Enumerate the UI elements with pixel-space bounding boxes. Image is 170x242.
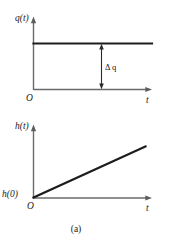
delta-q-arrowhead-top — [99, 44, 104, 50]
top-x-axis-label: t — [146, 95, 149, 105]
bottom-data-line-h — [34, 147, 146, 198]
figure-caption: (a) — [71, 224, 82, 235]
top-y-axis-arrowhead — [31, 17, 36, 24]
top-origin-label: O — [26, 93, 33, 103]
h-zero-intercept-label: h(0) — [2, 189, 18, 200]
chart-panel-top: q(t) t O Δ q — [15, 13, 152, 105]
bottom-x-axis-arrowhead — [145, 195, 152, 200]
delta-q-label: Δ q — [105, 62, 117, 72]
delta-q-arrowhead-bottom — [99, 84, 104, 90]
bottom-x-axis-label: t — [146, 203, 149, 213]
bottom-y-axis-arrowhead — [31, 125, 36, 132]
bottom-origin-label: O — [27, 201, 34, 211]
chart-panel-bottom: h(t) t O h(0) — [2, 121, 152, 213]
figure-container: q(t) t O Δ q h(t) t O h(0) (a) — [0, 0, 170, 242]
top-x-axis-arrowhead — [145, 87, 152, 92]
bottom-y-axis-label: h(t) — [15, 121, 29, 132]
figure-svg: q(t) t O Δ q h(t) t O h(0) (a) — [0, 0, 170, 242]
top-y-axis-label: q(t) — [15, 13, 29, 24]
